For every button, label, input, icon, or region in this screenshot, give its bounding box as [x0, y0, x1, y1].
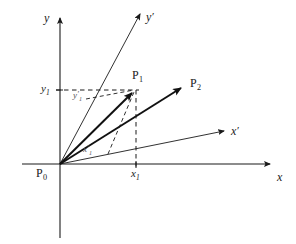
point-label-p1: P1	[132, 69, 143, 81]
axis-label-x-prime: x′	[231, 125, 239, 137]
vector-p0-p1	[60, 93, 132, 164]
diagram-canvas	[0, 0, 296, 244]
tick-label-y1-prime: y′1	[73, 91, 82, 100]
tick-label-x1-prime: x′1	[83, 145, 92, 154]
point-label-p2: P2	[190, 77, 201, 89]
axis-label-y: y	[44, 12, 49, 24]
axis-label-x: x	[277, 171, 282, 183]
tick-label-x1: x1	[131, 168, 140, 179]
axis-label-y-prime: y′	[146, 11, 154, 23]
y-prime-axis-line	[60, 14, 140, 164]
coordinate-rotation-figure: y x y′ x′ P0 P1 P2 y1 x1 y′1 x′1	[0, 0, 296, 244]
prime-mark-x: ′	[236, 124, 239, 136]
point-label-p0: P0	[36, 167, 47, 179]
tick-label-y1: y1	[41, 83, 50, 94]
prime-mark-y: ′	[151, 10, 154, 22]
construction-line-x1-prime	[108, 92, 134, 154]
